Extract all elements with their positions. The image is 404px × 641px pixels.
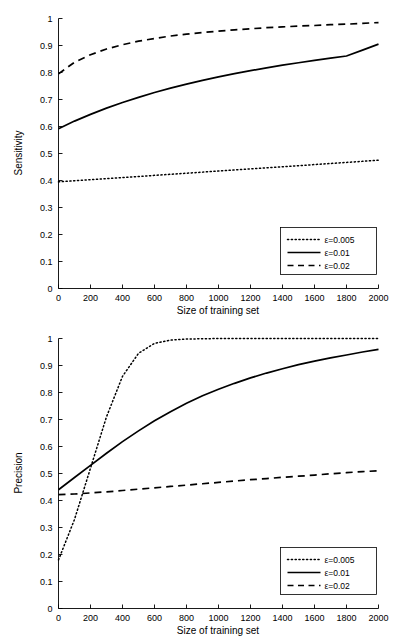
x-tick-label: 600 [147,293,162,303]
x-axis-title: Size of training set [177,305,259,316]
y-tick-label: 0.7 [40,415,53,425]
y-tick-label: 0.4 [40,176,53,186]
x-tick-label: 2000 [368,613,388,623]
x-tick-label: 1400 [272,613,292,623]
panel-sensitivity: 00.10.20.30.40.50.60.70.80.91 0200400600… [0,0,404,320]
precision-plot-svg: 00.10.20.30.40.50.60.70.80.91 0200400600… [0,320,404,641]
legend-label-3: ε=0.02 [325,581,351,591]
x-tick-label: 1600 [304,293,324,303]
y-tick-label: 0.2 [40,550,53,560]
series-curve-2 [59,44,379,129]
y-axis-title: Sensitivity [13,130,24,175]
x-tick-label: 1600 [304,613,324,623]
y-tick-label: 0.3 [40,203,53,213]
legend: ε=0.005ε=0.01ε=0.02 [281,228,377,275]
series-curve-2 [59,349,379,489]
y-tick-label: 0.6 [40,442,53,452]
x-tick-label: 0 [56,293,61,303]
series-curve-1 [59,339,379,560]
y-tickmarks [59,339,63,609]
x-tickmarks [59,285,379,289]
x-tick-label: 200 [83,613,98,623]
y-tick-labels: 00.10.20.30.40.50.60.70.80.91 [40,334,53,614]
y-tick-label: 0.7 [40,95,53,105]
y-tick-label: 0.4 [40,496,53,506]
panel-precision: 00.10.20.30.40.50.60.70.80.91 0200400600… [0,320,404,640]
series-curve-1 [59,160,379,182]
x-tickmarks [59,605,379,609]
figure-container: 00.10.20.30.40.50.60.70.80.91 0200400600… [0,0,404,641]
y-axis-title: Precision [13,452,24,493]
x-tick-label: 1200 [240,293,260,303]
x-tick-label: 1800 [336,613,356,623]
legend-label-1: ε=0.005 [325,555,355,565]
y-tick-label: 0.2 [40,230,53,240]
precision-curves [59,339,379,560]
sensitivity-curves [59,23,379,182]
x-tick-label: 1000 [208,293,228,303]
x-tick-label: 2000 [368,293,388,303]
y-tick-label: 0.1 [40,577,53,587]
x-axis-title: Size of training set [177,625,259,636]
x-tick-label: 1200 [240,613,260,623]
x-tick-label: 800 [179,293,194,303]
x-tick-labels: 0200400600800100012001400160018002000 [56,293,389,303]
y-tick-label: 0.3 [40,523,53,533]
x-tick-labels: 0200400600800100012001400160018002000 [56,613,389,623]
y-tick-label: 0.8 [40,388,53,398]
y-tick-label: 0.6 [40,122,53,132]
legend-label-2: ε=0.01 [325,568,351,578]
x-tick-label: 600 [147,613,162,623]
x-tick-label: 0 [56,613,61,623]
x-tick-label: 1400 [272,293,292,303]
x-tick-label: 400 [115,293,130,303]
series-curve-3 [59,23,379,74]
sensitivity-plot-svg: 00.10.20.30.40.50.60.70.80.91 0200400600… [0,0,404,320]
y-tickmarks [59,19,63,289]
x-tick-label: 800 [179,613,194,623]
x-tick-label: 400 [115,613,130,623]
y-tick-label: 0.9 [40,41,53,51]
legend-label-2: ε=0.01 [325,248,351,258]
legend: ε=0.005ε=0.01ε=0.02 [281,548,377,595]
y-tick-label: 1 [47,14,52,24]
y-tick-labels: 00.10.20.30.40.50.60.70.80.91 [40,14,53,294]
y-tick-label: 0 [47,604,52,614]
x-tick-label: 1000 [208,613,228,623]
x-tick-label: 1800 [336,293,356,303]
y-tick-label: 0.1 [40,257,53,267]
y-tick-label: 0.9 [40,361,53,371]
x-tick-label: 200 [83,293,98,303]
legend-label-3: ε=0.02 [325,261,351,271]
y-tick-label: 0.5 [40,469,53,479]
series-curve-3 [59,471,379,495]
legend-label-1: ε=0.005 [325,235,355,245]
y-tick-label: 0.8 [40,68,53,78]
y-tick-label: 0 [47,284,52,294]
y-tick-label: 0.5 [40,149,53,159]
y-tick-label: 1 [47,334,52,344]
